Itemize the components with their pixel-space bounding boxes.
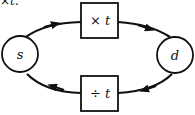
node-divide: ÷ t (81, 76, 118, 111)
edge-multiply-to-d (118, 22, 170, 37)
node-multiply: × t (81, 3, 118, 38)
source-label: s (17, 47, 24, 62)
dest-label: d (171, 48, 179, 63)
multiply-label: × t (90, 13, 111, 28)
edge-d-to-divide (118, 74, 172, 93)
node-source: s (2, 36, 38, 72)
divide-label: ÷ t (90, 86, 111, 101)
node-dest: d (157, 37, 193, 73)
edge-divide-to-s (27, 74, 81, 93)
edge-s-to-multiply (26, 22, 81, 37)
cycle-diagram: s d × t ÷ t (0, 0, 195, 115)
